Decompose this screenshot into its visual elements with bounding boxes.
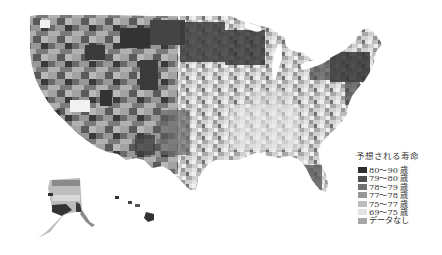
legend-title: 予想される寿命 (356, 150, 442, 162)
legend-swatch (358, 184, 367, 190)
legend-swatch (358, 201, 367, 207)
legend-label: データなし (369, 216, 409, 224)
legend-swatch (358, 209, 367, 215)
legend-swatch (358, 192, 367, 198)
legend-swatch (358, 218, 367, 224)
legend-items: 80～90 歳79～80 歳78～79 歳77～78 歳75～77 歳69～75… (356, 166, 442, 225)
alaska (38, 178, 95, 238)
legend: 予想される寿命 80～90 歳79～80 歳78～79 歳77～78 歳75～7… (356, 150, 442, 225)
legend-swatch (358, 176, 367, 182)
legend-item: データなし (356, 216, 442, 224)
hawaii (115, 196, 154, 222)
legend-swatch (358, 167, 367, 173)
